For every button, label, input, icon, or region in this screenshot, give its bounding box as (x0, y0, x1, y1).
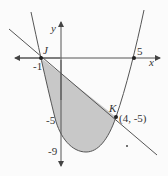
graph-figure: y x J -1 5 K (4, -5) -5 -9 (0, 0, 168, 176)
tick-label-minus5: -5 (46, 114, 56, 126)
point-k (114, 115, 118, 119)
y-axis-label: y (50, 22, 56, 34)
label-k-coords: (4, -5) (119, 112, 147, 125)
label-minus1: -1 (33, 60, 42, 72)
label-j: J (43, 44, 49, 56)
label-k: K (108, 102, 117, 114)
graph-svg: y x J -1 5 K (4, -5) -5 -9 (0, 0, 168, 176)
tick-label-minus9: -9 (48, 145, 58, 157)
label-5: 5 (137, 45, 143, 57)
stray-dot (126, 145, 128, 147)
point-root-5 (132, 56, 136, 60)
x-axis-label: x (148, 56, 154, 68)
